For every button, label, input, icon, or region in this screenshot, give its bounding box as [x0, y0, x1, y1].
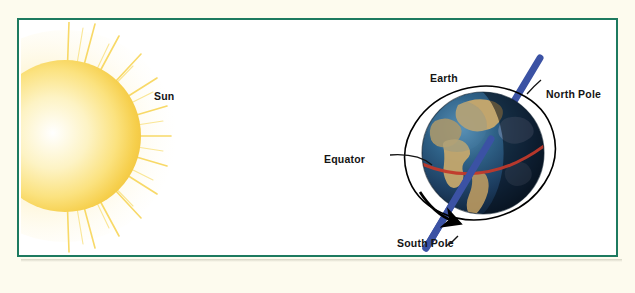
diagram-panel: Sun Earth North Pole Equator South Pole	[17, 18, 618, 257]
frame-drop-shadow	[21, 259, 622, 262]
label-earth: Earth	[430, 72, 458, 84]
label-south-pole: South Pole	[397, 237, 454, 249]
earth-graphic	[389, 58, 571, 248]
diagram-root: Sun Earth North Pole Equator South Pole	[0, 0, 635, 293]
label-equator: Equator	[324, 153, 365, 165]
label-north-pole: North Pole	[546, 88, 601, 100]
sun-graphic	[21, 22, 177, 252]
diagram-illustration	[21, 22, 614, 253]
diagram-panel-inner: Sun Earth North Pole Equator South Pole	[21, 22, 614, 253]
label-sun: Sun	[154, 90, 174, 102]
